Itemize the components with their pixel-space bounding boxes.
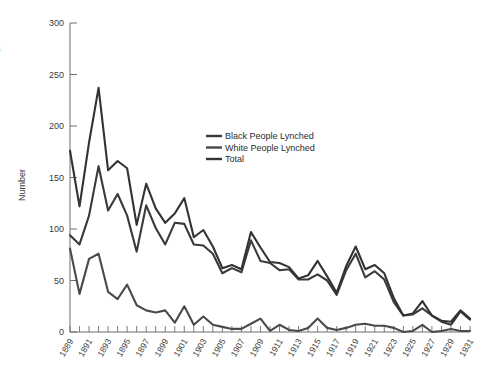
legend-label: Black People Lynched: [225, 131, 314, 141]
legend-label: White People Lynched: [225, 143, 315, 153]
y-tick-label: 50: [54, 276, 64, 286]
legend-label: Total: [225, 154, 244, 164]
chart-canvas: 050100150200250300 188918911893189518971…: [0, 0, 485, 378]
cropped-edge-text-fragment: s: [0, 44, 1, 54]
chart-background: [0, 0, 485, 378]
y-tick-label: 300: [49, 18, 64, 28]
lynching-statistics-line-chart: s 050100150200250300 1889189118931895189…: [0, 0, 485, 378]
y-tick-label: 250: [49, 70, 64, 80]
y-tick-label: 150: [49, 173, 64, 183]
y-tick-label: 100: [49, 224, 64, 234]
y-axis-title: Number: [17, 169, 27, 201]
y-tick-label: 200: [49, 121, 64, 131]
y-tick-label: 0: [59, 327, 64, 337]
